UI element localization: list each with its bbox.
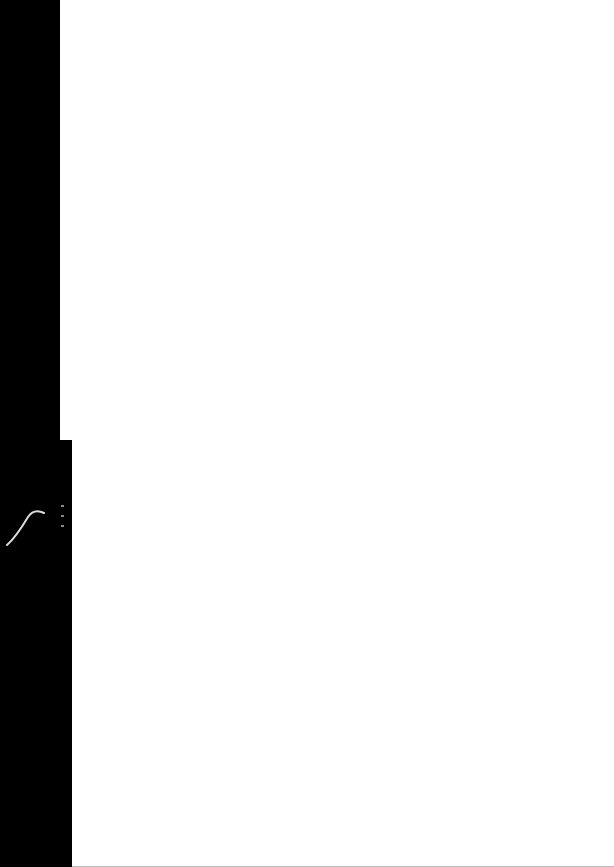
document-page-lower xyxy=(72,440,614,866)
edge-marks xyxy=(61,505,67,545)
curl-mark-icon xyxy=(2,505,50,553)
